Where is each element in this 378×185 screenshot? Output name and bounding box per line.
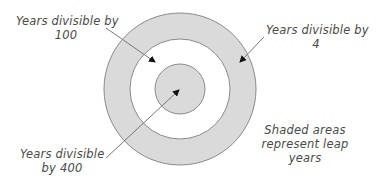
label-divisible-by-4: Years divisible by 4 bbox=[266, 23, 366, 51]
label-divisible-by-100: Years divisible by 100 bbox=[16, 14, 116, 42]
label-divisible-by-400: Years divisible by 400 bbox=[20, 147, 104, 175]
legend-shaded-areas: Shaded areas represent leap years bbox=[255, 123, 355, 165]
inner-circle-divisible-by-400 bbox=[155, 64, 205, 114]
